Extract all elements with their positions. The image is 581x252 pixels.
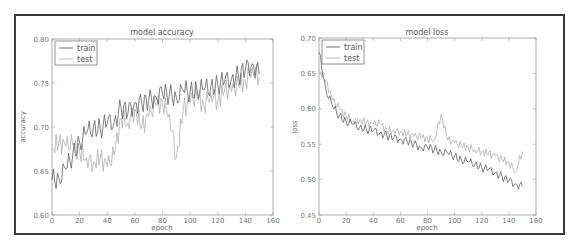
accuracy-legend: train test bbox=[55, 41, 97, 65]
loss-chart-title: model loss bbox=[406, 28, 449, 37]
legend-train-label: train bbox=[344, 43, 363, 52]
y-tick-label: 0.80 bbox=[33, 36, 49, 44]
loss-plot-area bbox=[319, 38, 536, 215]
x-tick-label: 40 bbox=[369, 217, 378, 225]
x-tick-label: 20 bbox=[75, 217, 84, 225]
train-line bbox=[319, 52, 522, 189]
x-tick-label: 100 bbox=[183, 217, 196, 225]
y-tick-label: 0.65 bbox=[33, 168, 49, 176]
loss-lines bbox=[319, 52, 522, 189]
x-tick-label: 100 bbox=[448, 217, 461, 225]
accuracy-plot-area bbox=[52, 39, 273, 215]
x-tick-label: 60 bbox=[396, 217, 405, 225]
accuracy-y-label: accuracy bbox=[19, 111, 27, 143]
loss-x-ticks: 020406080100120140160 bbox=[317, 38, 543, 225]
y-tick-label: 0.65 bbox=[300, 70, 316, 78]
loss-legend: train test bbox=[322, 40, 364, 64]
x-tick-label: 20 bbox=[342, 217, 351, 225]
y-tick-label: 0.70 bbox=[300, 35, 316, 43]
x-tick-label: 160 bbox=[529, 217, 542, 225]
x-tick-label: 140 bbox=[502, 217, 515, 225]
x-tick-label: 60 bbox=[130, 217, 139, 225]
x-tick-label: 0 bbox=[317, 217, 321, 225]
legend-test-label: test bbox=[77, 55, 92, 64]
y-tick-label: 0.50 bbox=[300, 176, 316, 184]
x-tick-label: 120 bbox=[475, 217, 488, 225]
accuracy-lines bbox=[52, 60, 259, 189]
y-tick-label: 0.75 bbox=[33, 80, 49, 88]
figure-canvas: model accuracy 0.600.650.700.750.80 0204… bbox=[0, 0, 581, 252]
x-tick-label: 120 bbox=[211, 217, 224, 225]
legend-test-label: test bbox=[344, 54, 359, 63]
y-tick-label: 0.70 bbox=[33, 124, 49, 132]
accuracy-x-label: epoch bbox=[151, 224, 172, 232]
x-tick-label: 160 bbox=[266, 217, 279, 225]
legend-train-label: train bbox=[77, 44, 96, 53]
x-tick-label: 0 bbox=[50, 217, 54, 225]
train-line bbox=[52, 60, 259, 189]
accuracy-chart: model accuracy 0.600.650.700.750.80 0204… bbox=[19, 28, 280, 232]
accuracy-x-ticks: 020406080100120140160 bbox=[50, 39, 280, 225]
x-tick-label: 40 bbox=[103, 217, 112, 225]
y-tick-label: 0.60 bbox=[300, 105, 316, 113]
y-tick-label: 0.55 bbox=[300, 141, 316, 149]
loss-y-label: loss bbox=[291, 120, 299, 134]
accuracy-chart-title: model accuracy bbox=[130, 28, 194, 37]
loss-x-label: epoch bbox=[416, 224, 437, 232]
y-tick-label: 0.45 bbox=[300, 212, 316, 220]
loss-chart: model loss 0.450.500.550.600.650.70 0204… bbox=[291, 28, 543, 232]
x-tick-label: 140 bbox=[239, 217, 252, 225]
y-tick-label: 0.60 bbox=[33, 212, 49, 220]
